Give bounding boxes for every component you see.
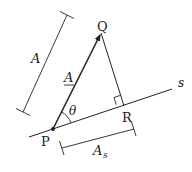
point-p-label: P — [41, 134, 50, 149]
projection-tick-right — [132, 122, 137, 136]
angle-theta-label: θ — [69, 104, 77, 118]
point-p-dot — [51, 127, 55, 131]
magnitude-a-label: A — [30, 51, 40, 66]
magnitude-a-dimension-line — [23, 15, 67, 112]
projection-label-main: A — [92, 143, 102, 158]
line-s-label: s — [178, 76, 184, 90]
vector-projection-diagram: Q R P s A A θ A s — [0, 0, 192, 172]
vector-a-label: A — [63, 70, 73, 85]
projection-label-subscript: s — [103, 150, 108, 160]
line-s — [29, 89, 172, 137]
magnitude-a-tick-bottom — [16, 109, 30, 116]
perpendicular-qr — [101, 33, 124, 106]
right-angle-marker — [114, 95, 121, 104]
magnitude-a-tick-top — [60, 12, 74, 19]
point-q-label: Q — [97, 19, 108, 34]
vector-a-arrow — [53, 35, 100, 129]
point-r-label: R — [122, 110, 133, 125]
